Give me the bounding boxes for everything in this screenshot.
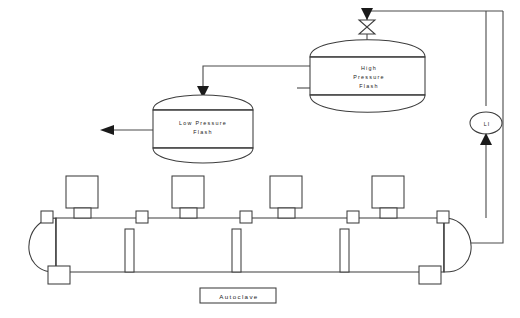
high-pressure-flash-vessel[interactable]: High Pressure Flash <box>310 40 425 113</box>
agitator-drive-2[interactable] <box>172 176 204 218</box>
nozzle-icon <box>419 266 441 284</box>
internal-baffle-icon <box>232 229 241 272</box>
agitator-drive-icon <box>372 176 404 208</box>
autoclave-vessel[interactable] <box>29 218 471 272</box>
lp-label-line2: Flash <box>193 129 212 135</box>
control-valve-icon[interactable] <box>359 8 375 41</box>
nozzle-icon <box>437 211 449 223</box>
li-tag: LI <box>484 121 491 127</box>
agitator-neck <box>278 208 295 218</box>
hp-bottom-head <box>310 95 425 112</box>
pipe-right-return <box>463 160 503 243</box>
low-pressure-flash-vessel[interactable]: Low Pressure Flash <box>153 86 253 163</box>
hp-label-line3: Flash <box>359 83 378 89</box>
agitator-drive-icon <box>66 176 98 208</box>
caption-text: Autoclave <box>219 293 258 300</box>
internal-baffle-icon <box>340 229 349 272</box>
agitator-drive-icon <box>172 176 204 208</box>
autoclave-shell <box>56 218 444 272</box>
lp-outlet-arrow-icon <box>100 125 114 135</box>
agitator-neck <box>380 208 397 218</box>
valve-inlet-arrow-icon <box>361 8 373 20</box>
lp-top-head <box>153 95 253 110</box>
hp-top-head <box>310 40 425 57</box>
autoclave-right-head <box>444 218 471 272</box>
internal-baffle-icon <box>125 229 134 272</box>
pfd-canvas: High Pressure Flash Low Pressure Flash L… <box>0 0 520 318</box>
nozzle-icon <box>41 211 53 223</box>
agitator-drive-3[interactable] <box>270 176 302 218</box>
hp-label-line1: High <box>361 65 377 71</box>
hp-label-line2: Pressure <box>353 74 385 80</box>
autoclave-left-head <box>29 218 56 272</box>
agitator-neck <box>180 208 197 218</box>
level-indicator-instrument[interactable]: LI <box>470 112 502 145</box>
nozzle-icon <box>48 266 70 284</box>
valve-bowtie <box>359 20 375 34</box>
agitator-drive-4[interactable] <box>372 176 404 218</box>
autoclave-caption: Autoclave <box>200 288 276 303</box>
process-flow-diagram: High Pressure Flash Low Pressure Flash L… <box>0 0 520 318</box>
lp-label-line1: Low Pressure <box>179 120 227 126</box>
nozzle-icon <box>240 211 252 223</box>
li-flow-arrow-icon <box>480 133 492 145</box>
agitator-drive-1[interactable] <box>66 176 98 218</box>
agitator-drive-icon <box>270 176 302 208</box>
nozzle-icon <box>136 211 148 223</box>
agitator-neck <box>74 208 91 218</box>
lp-bottom-head <box>153 148 253 163</box>
nozzle-icon <box>347 211 359 223</box>
